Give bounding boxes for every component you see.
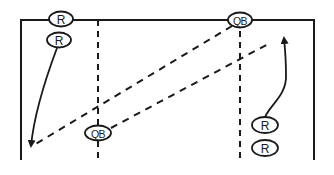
player-label: R [55, 34, 64, 48]
quarterback-marker: QB [228, 13, 252, 28]
dashed-verticals [98, 20, 240, 160]
receiver-marker: R [252, 140, 278, 156]
player-label: R [261, 142, 270, 156]
player-label: R [261, 119, 270, 133]
player-label: QB [91, 128, 106, 140]
football-play-diagram: RRQBQBRR [0, 0, 334, 175]
quarterback-marker: QB [85, 126, 111, 141]
route-arrow-1 [31, 48, 57, 146]
receiver-marker: R [47, 33, 71, 48]
play-canvas: RRQBQBRR [0, 0, 334, 175]
player-label: QB [233, 15, 248, 27]
receiver-marker: R [49, 12, 73, 27]
players: RRQBQBRR [47, 12, 278, 157]
receiver-marker: R [252, 117, 278, 133]
pass-line-2 [111, 43, 270, 128]
route-arrows [31, 38, 286, 146]
player-label: R [57, 13, 66, 27]
route-arrow-2 [265, 38, 286, 117]
